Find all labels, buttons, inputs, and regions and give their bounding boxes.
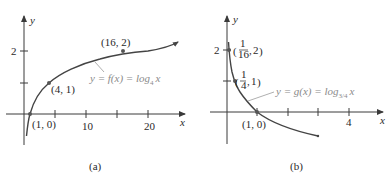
y-tick-label-b-2: 2 <box>214 44 220 56</box>
svg-text:,: , <box>249 44 252 56</box>
point-b-1-0 <box>255 110 259 114</box>
equation-leader-b <box>248 92 274 101</box>
curve-end-b <box>317 135 319 137</box>
svg-text:): ) <box>257 76 261 89</box>
x-axis-label-a: x <box>179 116 185 128</box>
y-axis-label-a: y <box>29 14 35 26</box>
y-tick-label-a-2: 2 <box>11 45 17 57</box>
x-tick-label-a-20: 20 <box>144 120 156 132</box>
panel-caption-b: (b) <box>290 160 303 173</box>
point-label-b-1-0: (1, 0) <box>242 118 266 131</box>
point-label-a-16-2: (16, 2) <box>101 36 131 49</box>
point-b-1-16-2 <box>227 48 231 52</box>
svg-text:,: , <box>247 75 250 87</box>
point-label-b-1-16-2: ( 1 16 , 2 ) <box>233 37 263 60</box>
x-tick-label-b-4: 4 <box>346 116 352 128</box>
panel-b: 4 2 x y ( 1 16 , 2 ) ( 1 4 , 1 ) (1, <box>210 13 385 173</box>
svg-text:2: 2 <box>253 44 259 56</box>
panel-caption-a: (a) <box>89 160 102 173</box>
svg-text:): ) <box>259 45 263 58</box>
equation-a: y = f(x) = log4x <box>89 72 161 87</box>
point-a-1-0 <box>28 112 32 116</box>
y-axis-label-b: y <box>232 13 238 25</box>
point-label-a-1-0: (1, 0) <box>32 118 56 131</box>
svg-text:16: 16 <box>238 48 250 60</box>
x-axis-label-b: x <box>379 114 385 126</box>
equation-leader-a <box>95 62 104 72</box>
panel-a: 10 20 2 x y (1, 0) (4, 1) (16, 2) y = f(… <box>6 14 185 173</box>
equation-b: y = g(x) = log3/4x <box>275 85 354 100</box>
figure: 10 20 2 x y (1, 0) (4, 1) (16, 2) y = f(… <box>0 0 389 184</box>
svg-text:(: ( <box>233 45 237 58</box>
svg-text:1: 1 <box>251 75 257 87</box>
svg-text:(: ( <box>235 76 239 89</box>
point-label-a-4-1: (4, 1) <box>51 83 75 96</box>
point-a-16-2 <box>121 49 125 53</box>
x-tick-label-a-10: 10 <box>82 120 94 132</box>
point-label-b-1-4-1: ( 1 4 , 1 ) <box>235 68 261 91</box>
